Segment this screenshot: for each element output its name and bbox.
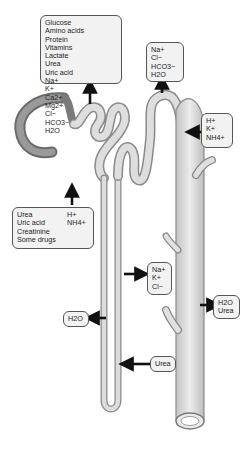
ion-label: NH4+ [67,219,86,227]
dct-reabsorption-box: Na+ Cl− HCO3− H2O [146,42,184,82]
ascending-limb-box: Na+ K+ Cl− [147,262,172,295]
substances-column: Glucose Amino acids Protein Vitamins Lac… [45,19,95,77]
pct-reabsorption-box: Glucose Amino acids Protein Vitamins Lac… [40,15,122,84]
ion-label: Cl− [152,283,167,291]
ions-column: H+ NH4+ [67,211,86,228]
substances-column: Urea Uric acid Creatinine Some drugs [17,211,65,244]
dct-secretion-box: H+ K+ NH4+ [201,113,233,148]
pct-secretion-box: Urea Uric acid Creatinine Some drugs H+ … [12,207,94,249]
ion-label: NH4+ [206,134,228,142]
substance-label: Urea [155,360,171,368]
ions-column: Na+ K+ Ca2+ Mg2+ Cl− HCO3− H2O [45,77,69,135]
collecting-duct-box: H2O Urea [213,295,240,319]
collecting-duct [166,99,212,429]
descending-limb-box: H2O [63,311,89,327]
loop-secretion-box: Urea [150,356,176,372]
loop-of-henle [104,176,118,409]
ion-label: H2O [45,127,69,135]
distal-convoluted-tubule [118,95,182,181]
substance-label: Some drugs [17,236,65,244]
ion-label: H2O [68,315,84,323]
ion-label: H2O [151,71,179,79]
ion-label: Urea [218,307,235,315]
